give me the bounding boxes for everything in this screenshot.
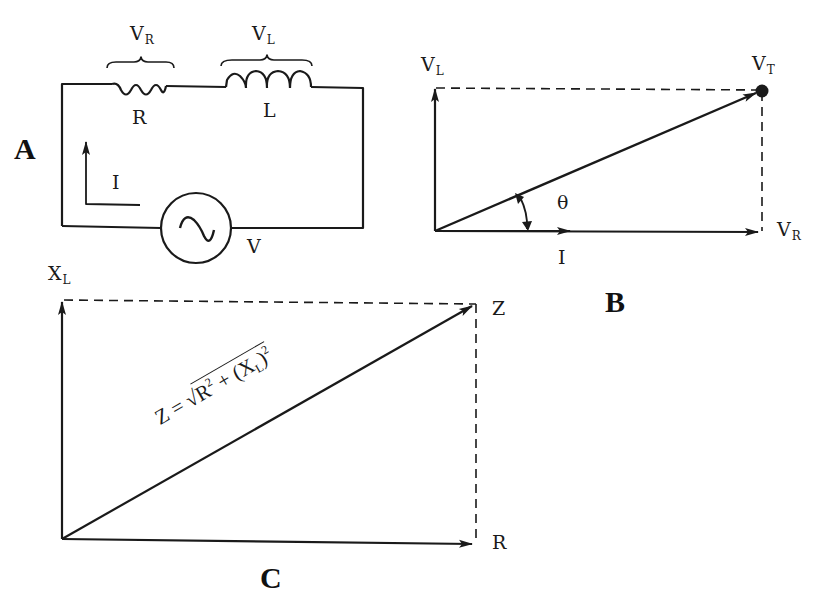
phasor-panel-b — [435, 85, 769, 233]
inductor-icon — [226, 71, 311, 88]
wire-right — [231, 87, 363, 228]
current-label-a: I — [112, 173, 120, 192]
panel-label-a: A — [14, 134, 36, 164]
dashed-top-c — [64, 300, 476, 304]
source-label: V — [247, 237, 261, 256]
vr-label: VR — [130, 24, 154, 46]
z-label: Z — [492, 299, 505, 318]
diagram-drawing — [0, 0, 814, 592]
brace-vr-icon — [107, 57, 174, 68]
panel-label-b: B — [605, 287, 625, 317]
inductor-label: L — [263, 101, 276, 120]
vt-phasor-label: VT — [752, 54, 775, 76]
circuit-panel-a — [62, 55, 363, 263]
xl-label: XL — [48, 264, 71, 286]
resistor-label: R — [132, 108, 146, 127]
wire-bottom — [62, 226, 161, 228]
vl-phasor-label: VL — [421, 55, 444, 77]
wire-middle — [166, 86, 226, 87]
impedance-panel-c — [62, 300, 476, 544]
rl-circuit-figure: A B C VR VL R L I V VL VT VR θ I XL Z R … — [0, 0, 814, 592]
dashed-top — [436, 88, 760, 90]
current-label-b: I — [558, 248, 566, 267]
vt-vector — [435, 93, 756, 231]
sine-wave-icon — [180, 217, 214, 240]
z-vector — [62, 306, 472, 539]
ac-source-icon — [161, 193, 231, 263]
theta-label: θ — [557, 193, 568, 212]
vl-label: VL — [252, 24, 275, 46]
brace-vl-icon — [221, 55, 312, 66]
panel-label-c: C — [260, 563, 282, 592]
r-vector — [62, 539, 472, 544]
vr-phasor-label: VR — [777, 220, 801, 242]
vt-endpoint-dot — [756, 85, 769, 98]
resistor-icon — [112, 84, 166, 95]
r-label: R — [492, 533, 506, 552]
